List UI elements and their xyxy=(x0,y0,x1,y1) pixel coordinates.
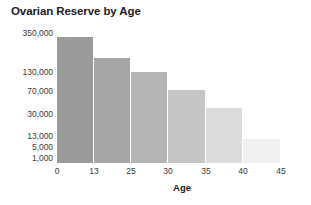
x-tick-label-0: 0 xyxy=(42,166,72,176)
x-tick-label-35: 35 xyxy=(191,166,221,176)
x-axis: 0 13 25 30 35 40 45 Age xyxy=(0,0,311,205)
x-tick-label-25: 25 xyxy=(116,166,146,176)
x-axis-title: Age xyxy=(0,182,311,193)
ovarian-reserve-bar-chart: Ovarian Reserve by Age 350,000 130,000 7… xyxy=(0,0,311,205)
x-tick-label-45: 45 xyxy=(266,166,296,176)
x-tick-label-30: 30 xyxy=(153,166,183,176)
x-tick-label-13: 13 xyxy=(79,166,109,176)
x-tick-label-40: 40 xyxy=(228,166,258,176)
